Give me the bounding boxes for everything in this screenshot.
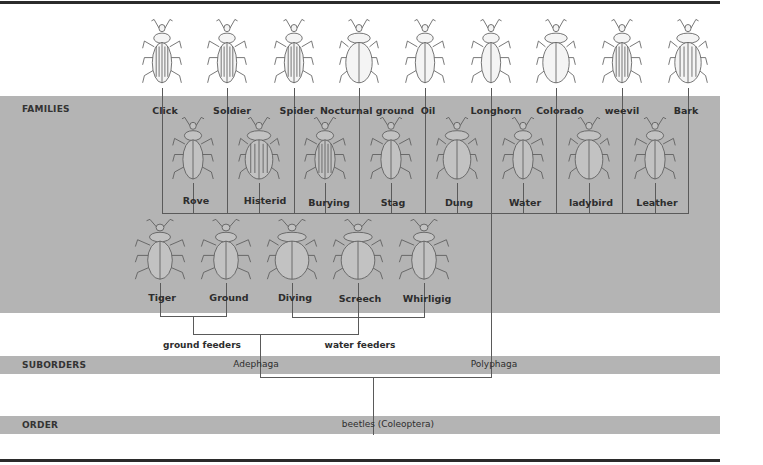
rank-label-order: ORDER [22,420,58,430]
family-label-screech: Screech [339,293,381,304]
family-label-water: Water [509,197,541,208]
suborder-label-polyphaga: Polyphaga [471,359,518,369]
order-label-coleoptera: beetles (Coleoptera) [342,419,434,429]
group-label-ground-feeders: ground feeders [163,340,241,350]
beetle-illustration-icon [666,18,710,94]
connector-screech [358,283,359,335]
beetle-illustration-icon [140,18,184,94]
rank-label-families: FAMILIES [22,104,70,114]
family-label-click: Click [152,105,177,116]
beetle-illustration-icon [198,218,254,290]
suborders-band [0,356,720,374]
family-label-leather: Leather [636,197,677,208]
family-label-burying: Burying [308,197,350,208]
water-feeders-bracket [292,317,425,318]
beetle-illustration-icon [434,116,480,190]
family-label-spider: Spider [280,105,315,116]
top-rule [0,1,720,4]
family-label-soldier: Soldier [213,105,251,116]
beetle-illustration-icon [205,18,249,94]
beetle-illustration-icon [534,18,578,94]
beetle-illustration-icon [272,18,316,94]
beetle-illustration-icon [396,218,452,290]
beetle-illustration-icon [368,116,414,190]
bottom-rule [0,459,720,462]
family-label-histerid: Histerid [244,195,287,206]
family-label-whirligig: Whirligig [403,293,452,304]
family-label-tiger: Tiger [148,292,176,303]
beetle-illustration-icon [600,18,644,94]
family-label-dung: Dung [445,197,473,208]
adephaga-join [193,334,359,335]
rank-label-suborders: SUBORDERS [22,360,86,370]
beetle-illustration-icon [330,218,386,290]
family-label-oil: Oil [421,105,436,116]
polyphaga-families-connector [162,213,689,214]
family-label-stag: Stag [381,197,406,208]
beetle-illustration-icon [500,116,546,190]
beetle-illustration-icon [132,218,188,290]
connector-longhorn-polyphaga [491,88,492,378]
family-label-diving: Diving [278,292,312,303]
suborders-join [260,377,492,378]
family-label-colorado: Colorado [536,105,584,116]
beetle-illustration-icon [302,116,348,190]
suborder-label-adephaga: Adephaga [233,359,278,369]
family-label-rove: Rove [183,195,209,206]
beetle-illustration-icon [170,116,216,190]
family-label-longhorn: Longhorn [471,105,522,116]
ground-feeders-stem [193,316,194,335]
family-label-weevil: weevil [605,105,639,116]
family-label-bark: Bark [674,105,699,116]
beetle-illustration-icon [469,18,513,94]
group-label-water-feeders: water feeders [325,340,396,350]
beetle-illustration-icon [566,116,612,190]
beetle-illustration-icon [337,18,381,94]
beetle-illustration-icon [403,18,447,94]
family-label-nocturnal-ground: Nocturnal ground [320,105,414,116]
beetle-illustration-icon [632,116,678,190]
adephaga-stem [260,334,261,378]
beetle-illustration-icon [264,218,320,290]
beetle-illustration-icon [236,116,282,190]
family-label-ladybird: ladybird [569,197,613,208]
family-label-ground: Ground [209,292,248,303]
